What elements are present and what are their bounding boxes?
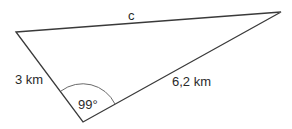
triangle [16,12,281,122]
label-side-c: c [128,8,135,23]
label-side-left: 3 km [15,72,43,87]
triangle-diagram: c 3 km 6,2 km 99° [0,0,292,129]
label-angle: 99° [78,97,98,112]
label-side-right: 6,2 km [172,74,211,89]
